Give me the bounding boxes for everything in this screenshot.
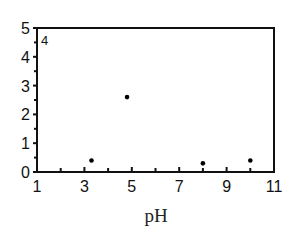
panel-label: 4	[41, 33, 48, 48]
y-tick-label: 3	[21, 78, 30, 95]
data-points	[89, 95, 252, 166]
x-tick-label: 9	[222, 178, 231, 195]
data-point	[201, 161, 206, 166]
plot-border	[37, 28, 274, 172]
y-tick-label: 4	[21, 49, 30, 66]
x-tick-label: 1	[33, 178, 42, 195]
x-tick-label: 3	[80, 178, 89, 195]
plot-frame	[37, 28, 274, 172]
axis-ticks: 1357911012345	[21, 20, 282, 195]
y-tick-label: 2	[21, 106, 30, 123]
y-tick-label: 0	[21, 164, 30, 181]
data-point	[125, 95, 130, 100]
data-point	[248, 158, 253, 163]
x-tick-label: 7	[175, 178, 184, 195]
data-point	[89, 158, 94, 163]
x-tick-label: 5	[127, 178, 136, 195]
y-tick-label: 1	[21, 135, 30, 152]
y-tick-label: 5	[21, 20, 30, 37]
x-axis-label: pH	[144, 205, 168, 226]
scatter-chart: 1357911012345 4 pH	[0, 0, 293, 238]
x-tick-label: 11	[266, 178, 283, 195]
